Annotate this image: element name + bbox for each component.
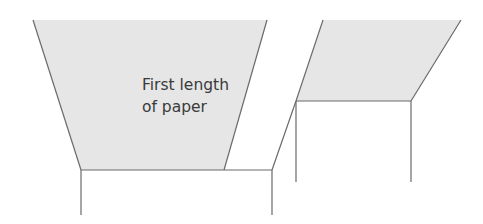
- first-length-of-paper-shape: [33, 20, 267, 170]
- connector-diagonal: [272, 101, 296, 170]
- paper-hanging-diagram: First length of paper: [0, 0, 483, 224]
- paper-label-line2: of paper: [142, 98, 208, 116]
- paper-label-line1: First length: [142, 76, 229, 94]
